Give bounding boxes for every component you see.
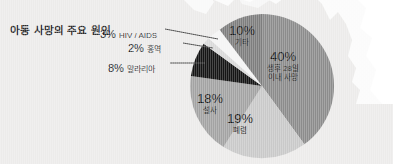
callout-hiv-aids-percent: 3%: [100, 28, 116, 40]
callout-measles: 2%홍역: [128, 38, 161, 56]
slice-label-neonatal-name1: 생후 28일: [252, 65, 314, 73]
slice-label-neonatal-percent: 40%: [252, 50, 314, 64]
slice-label-neonatal-name2: 이내 사망: [252, 74, 314, 82]
callout-measles-percent: 2%: [128, 42, 144, 54]
slice-label-diarrhea-percent: 18%: [186, 92, 234, 106]
slice-label-other-percent: 10%: [218, 24, 266, 38]
callout-malaria-percent: 8%: [108, 62, 124, 74]
slice-label-pneumonia: 19% 폐렴: [215, 112, 265, 135]
slice-label-other: 10% 기타: [218, 24, 266, 47]
page-title: 아동 사망의 주요 원인: [10, 22, 111, 37]
callout-measles-label: 홍역: [147, 45, 161, 54]
callout-malaria-label: 말라리아: [127, 65, 155, 74]
slice-label-diarrhea-name: 설사: [186, 107, 234, 115]
slice-label-other-name: 기타: [218, 39, 266, 47]
slice-label-diarrhea: 18% 설사: [186, 92, 234, 115]
callout-malaria: 8%말라리아: [108, 58, 155, 76]
infographic-panel: 아동 사망의 주요 원인 3%HIV / AIDS 2%홍: [0, 0, 393, 164]
slice-label-pneumonia-name: 폐렴: [215, 127, 265, 135]
slice-label-neonatal: 40% 생후 28일 이내 사망: [252, 50, 314, 81]
